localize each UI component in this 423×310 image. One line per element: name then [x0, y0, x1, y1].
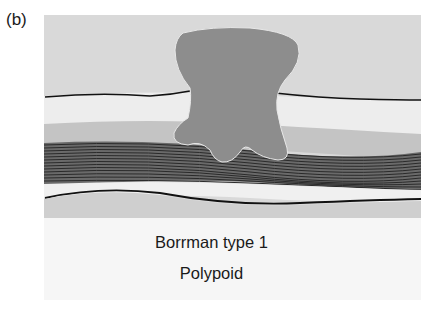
panel-label: (b)	[6, 10, 27, 30]
caption-type: Borrman type 1	[0, 233, 423, 252]
caption-box	[44, 218, 421, 300]
caption-morphology: Polypoid	[0, 264, 423, 283]
